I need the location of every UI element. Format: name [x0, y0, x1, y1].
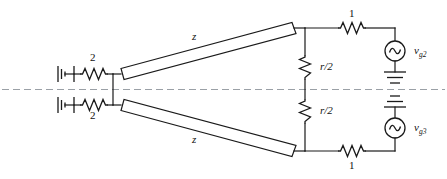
resistor-source-top-icon [80, 69, 108, 80]
label-source-resistor-top: 2 [90, 52, 96, 63]
transmission-line-bottom [121, 100, 296, 157]
label-load-resistor-bottom: 1 [349, 160, 355, 171]
label-source-resistor-bottom: 2 [90, 110, 96, 121]
ac-source-bottom-icon [385, 118, 405, 138]
ground-left-top-icon [58, 66, 74, 82]
label-load-resistor-top: 1 [349, 8, 355, 19]
label-transmission-line-bottom: z [192, 134, 196, 145]
transmission-line-top [121, 23, 296, 80]
ground-center-bottom-icon [384, 96, 406, 107]
label-shunt-resistor-bottom: r/2 [320, 105, 333, 116]
ac-source-top-icon [385, 41, 405, 61]
resistor-shunt-top-icon [300, 55, 311, 80]
label-generator-top: vg2 [414, 45, 426, 59]
label-shunt-resistor-top: r/2 [320, 61, 333, 72]
circuit-schematic-canvas [0, 0, 447, 179]
label-generator-top-subscript: g2 [419, 50, 427, 59]
resistor-shunt-bottom-icon [300, 99, 311, 124]
label-generator-bottom: vg3 [414, 122, 426, 136]
ground-center-top-icon [384, 72, 406, 83]
label-transmission-line-top: z [192, 31, 196, 42]
label-generator-bottom-subscript: g3 [419, 127, 427, 136]
circuit-diagram: 2 2 z z 1 1 r/2 r/2 vg2 vg3 [0, 0, 447, 179]
ground-left-bottom-icon [58, 97, 74, 113]
resistor-load-top-icon [338, 23, 366, 34]
resistor-load-bottom-icon [338, 146, 366, 157]
